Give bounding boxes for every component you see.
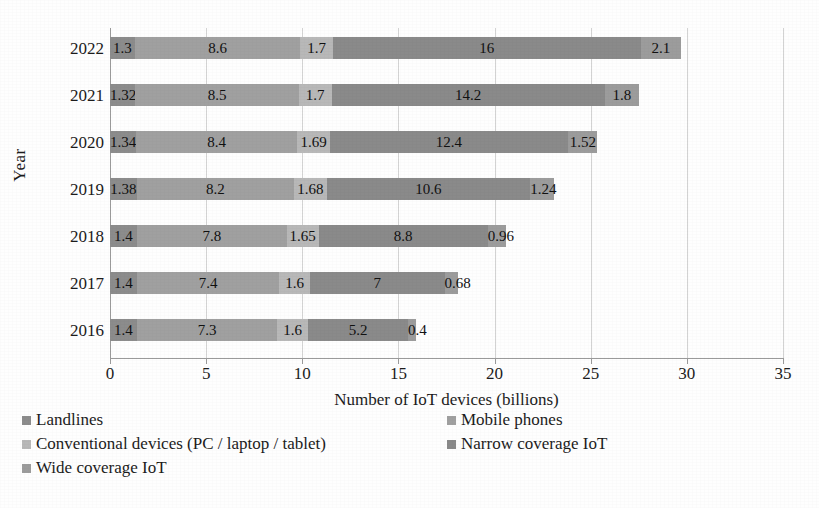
- bar-value-label: 8.2: [137, 178, 295, 200]
- bar-value-label: 1.8: [605, 84, 640, 106]
- bar-row: 1.38.61.7162.1: [110, 37, 681, 59]
- bar-segment: 0.96: [488, 225, 506, 247]
- y-axis-tick-label: 2022: [40, 38, 104, 60]
- bar-value-label: 1.24: [530, 178, 554, 200]
- legend-swatch-icon: [22, 440, 31, 449]
- bar-value-label: 1.3: [110, 37, 135, 59]
- y-axis-tick-label: 2017: [40, 273, 104, 295]
- legend-label: Wide coverage IoT: [36, 456, 167, 480]
- legend-item[interactable]: Landlines: [22, 408, 447, 432]
- bar-value-label: 1.52: [568, 131, 597, 153]
- bar-value-label: 1.4: [110, 272, 137, 294]
- bar-value-label: 1.34: [110, 131, 136, 153]
- bar-segment: 1.6: [279, 272, 310, 294]
- bar-segment: 1.34: [110, 131, 136, 153]
- bar-value-label: 14.2: [332, 84, 605, 106]
- bar-value-label: 2.1: [641, 37, 681, 59]
- bar-segment: 7.8: [137, 225, 287, 247]
- bar-segment: 16: [333, 37, 641, 59]
- bar-row: 1.47.81.658.80.96: [110, 225, 506, 247]
- y-axis-tick-labels: 2022202120202019201820172016: [32, 28, 104, 358]
- bar-segment: 10.6: [327, 178, 531, 200]
- y-axis-tick-label: 2016: [40, 320, 104, 342]
- gridline: [783, 28, 784, 359]
- legend-row: LandlinesMobile phones: [22, 408, 802, 432]
- bar-segment: 12.4: [330, 131, 568, 153]
- legend-label: Conventional devices (PC / laptop / tabl…: [36, 432, 326, 456]
- legend-swatch-icon: [447, 416, 456, 425]
- bar-value-label: 1.38: [110, 178, 137, 200]
- bar-segment: 7.3: [137, 319, 277, 341]
- plot-area: 1.38.61.7162.11.328.51.714.21.81.348.41.…: [110, 28, 783, 358]
- bar-row: 1.328.51.714.21.8: [110, 84, 639, 106]
- legend-swatch-icon: [22, 416, 31, 425]
- bar-segment: 0.68: [445, 272, 458, 294]
- y-axis-title: Year: [10, 148, 30, 181]
- bar-value-label: 1.65: [287, 225, 319, 247]
- bar-segment: 8.6: [135, 37, 300, 59]
- bar-row: 1.388.21.6810.61.24: [110, 178, 554, 200]
- legend: LandlinesMobile phonesConventional devic…: [22, 408, 802, 480]
- bar-value-label: 1.68: [294, 178, 326, 200]
- x-axis-title-wrap: Number of IoT devices (billions): [110, 368, 783, 410]
- bar-segment: 8.5: [135, 84, 298, 106]
- bar-segment: 1.4: [110, 319, 137, 341]
- bar-segment: 14.2: [332, 84, 605, 106]
- bar-segment: 1.52: [568, 131, 597, 153]
- bar-segment: 1.7: [300, 37, 333, 59]
- stacked-bar-chart: Year 2022202120202019201820172016 1.38.6…: [0, 0, 819, 508]
- bar-value-label: 8.8: [319, 225, 488, 247]
- bar-value-label: 12.4: [330, 131, 568, 153]
- bar-row: 1.47.41.670.68: [110, 272, 458, 294]
- bar-value-label: 8.6: [135, 37, 300, 59]
- legend-swatch-icon: [22, 464, 31, 473]
- bar-value-label: 1.69: [297, 131, 329, 153]
- bar-value-label: 7.8: [137, 225, 287, 247]
- bar-segment: 1.6: [277, 319, 308, 341]
- bar-value-label: 8.5: [135, 84, 298, 106]
- bar-segment: 1.69: [297, 131, 329, 153]
- bar-segment: 7.4: [137, 272, 279, 294]
- bar-segment: 1.38: [110, 178, 137, 200]
- bar-value-label: 0.4: [408, 319, 416, 341]
- bar-segment: 8.4: [136, 131, 298, 153]
- y-axis-tick-label: 2019: [40, 179, 104, 201]
- legend-item[interactable]: Narrow coverage IoT: [447, 432, 607, 456]
- bar-segment: 1.4: [110, 225, 137, 247]
- bar-value-label: 1.6: [277, 319, 308, 341]
- bar-segment: 1.4: [110, 272, 137, 294]
- legend-label: Landlines: [36, 408, 103, 432]
- y-axis-tick-label: 2020: [40, 132, 104, 154]
- bar-value-label: 7: [310, 272, 445, 294]
- bar-segment: 8.2: [137, 178, 295, 200]
- bar-segment: 1.8: [605, 84, 640, 106]
- legend-item[interactable]: Conventional devices (PC / laptop / tabl…: [22, 432, 447, 456]
- bar-value-label: 0.96: [488, 225, 506, 247]
- bar-value-label: 10.6: [327, 178, 531, 200]
- bar-value-label: 1.7: [300, 37, 333, 59]
- bar-value-label: 0.68: [445, 272, 458, 294]
- legend-swatch-icon: [447, 440, 456, 449]
- bar-value-label: 16: [333, 37, 641, 59]
- bar-value-label: 7.3: [137, 319, 277, 341]
- bar-segment: 0.4: [408, 319, 416, 341]
- bar-value-label: 7.4: [137, 272, 279, 294]
- bar-value-label: 5.2: [308, 319, 408, 341]
- legend-item[interactable]: Wide coverage IoT: [22, 456, 447, 480]
- legend-label: Mobile phones: [461, 408, 563, 432]
- bar-segment: 1.7: [299, 84, 332, 106]
- bar-row: 1.348.41.6912.41.52: [110, 131, 597, 153]
- bar-value-label: 1.7: [299, 84, 332, 106]
- bar-segment: 1.24: [530, 178, 554, 200]
- bar-segment: 1.68: [294, 178, 326, 200]
- x-axis-line: [110, 358, 783, 359]
- legend-row: Wide coverage IoT: [22, 456, 802, 480]
- bar-segment: 2.1: [641, 37, 681, 59]
- legend-item[interactable]: Mobile phones: [447, 408, 563, 432]
- bar-segment: 1.65: [287, 225, 319, 247]
- legend-label: Narrow coverage IoT: [461, 432, 607, 456]
- bar-row: 1.47.31.65.20.4: [110, 319, 416, 341]
- bar-value-label: 8.4: [136, 131, 298, 153]
- bar-segment: 1.3: [110, 37, 135, 59]
- bar-value-label: 1.4: [110, 319, 137, 341]
